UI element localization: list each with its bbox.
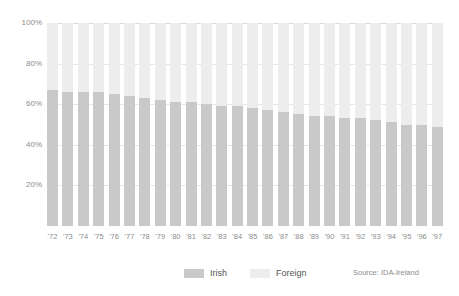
bar-column[interactable] <box>186 23 197 226</box>
x-axis-tick-label: '74 <box>78 232 89 244</box>
bar-column[interactable] <box>93 23 104 226</box>
bar-segment-foreign <box>370 23 381 120</box>
y-axis-tick-label: 20% <box>4 181 42 189</box>
x-axis-tick-label: '78 <box>139 232 150 244</box>
bar-segment-irish <box>324 116 335 226</box>
bar-segment-foreign <box>416 23 427 125</box>
bar-segment-foreign <box>186 23 197 102</box>
bar-column[interactable] <box>339 23 350 226</box>
x-axis-tick-label: '92 <box>355 232 366 244</box>
bar-segment-irish <box>155 100 166 226</box>
bar-column[interactable] <box>262 23 273 226</box>
legend-swatch-foreign <box>250 269 270 278</box>
bar-segment-irish <box>216 106 227 226</box>
bar-segment-foreign <box>78 23 89 92</box>
x-axis-tick-label: '91 <box>339 232 350 244</box>
bar-column[interactable] <box>386 23 397 226</box>
bar-segment-foreign <box>432 23 443 127</box>
bar-column[interactable] <box>293 23 304 226</box>
bar-column[interactable] <box>47 23 58 226</box>
bar-segment-irish <box>93 92 104 226</box>
bar-column[interactable] <box>62 23 73 226</box>
bar-segment-foreign <box>355 23 366 118</box>
bar-segment-foreign <box>262 23 273 110</box>
x-axis-tick-label: '88 <box>293 232 304 244</box>
bar-column[interactable] <box>401 23 412 226</box>
bar-column[interactable] <box>232 23 243 226</box>
legend-entry-irish[interactable]: Irish <box>184 266 227 280</box>
bar-segment-irish <box>262 110 273 226</box>
bar-column[interactable] <box>309 23 320 226</box>
bar-segment-irish <box>339 118 350 226</box>
bar-series-container <box>47 23 443 226</box>
bar-segment-irish <box>293 114 304 226</box>
y-axis-tick-label: 80% <box>4 60 42 68</box>
bar-segment-foreign <box>62 23 73 92</box>
bar-segment-foreign <box>170 23 181 102</box>
bar-segment-irish <box>201 104 212 226</box>
bar-column[interactable] <box>247 23 258 226</box>
x-axis-tick-label: '85 <box>247 232 258 244</box>
legend-label-irish: Irish <box>210 268 227 278</box>
bar-segment-irish <box>139 98 150 226</box>
x-axis-tick-label: '93 <box>370 232 381 244</box>
bar-segment-foreign <box>109 23 120 94</box>
x-axis-tick-label: '72 <box>47 232 58 244</box>
y-axis-tick-label: 40% <box>4 141 42 149</box>
bar-column[interactable] <box>370 23 381 226</box>
bar-segment-foreign <box>93 23 104 92</box>
bar-segment-foreign <box>309 23 320 116</box>
x-axis-tick-label: '75 <box>93 232 104 244</box>
legend-entry-foreign[interactable]: Foreign <box>250 266 307 280</box>
bar-segment-irish <box>170 102 181 226</box>
source-note: Source: IDA-Ireland <box>353 268 419 277</box>
x-axis-tick-label: '83 <box>216 232 227 244</box>
axis-baseline <box>47 226 443 227</box>
bar-column[interactable] <box>416 23 427 226</box>
y-axis-tick-label: 100% <box>4 19 42 27</box>
legend-swatch-irish <box>184 269 204 278</box>
bar-column[interactable] <box>139 23 150 226</box>
x-axis-tick-label: '76 <box>109 232 120 244</box>
x-axis-tick-label: '95 <box>401 232 412 244</box>
bar-column[interactable] <box>432 23 443 226</box>
x-axis-tick-label: '73 <box>62 232 73 244</box>
bar-column[interactable] <box>278 23 289 226</box>
x-axis-tick-label: '87 <box>278 232 289 244</box>
bar-segment-foreign <box>124 23 135 96</box>
bar-column[interactable] <box>201 23 212 226</box>
x-axis-tick-label: '82 <box>201 232 212 244</box>
bar-column[interactable] <box>155 23 166 226</box>
bar-segment-foreign <box>201 23 212 104</box>
bar-column[interactable] <box>324 23 335 226</box>
x-axis-tick-label: '79 <box>155 232 166 244</box>
bar-segment-foreign <box>139 23 150 98</box>
bar-segment-irish <box>109 94 120 226</box>
bar-segment-foreign <box>278 23 289 112</box>
bar-segment-irish <box>232 106 243 226</box>
x-axis-tick-label: '86 <box>262 232 273 244</box>
bar-column[interactable] <box>124 23 135 226</box>
bar-column[interactable] <box>170 23 181 226</box>
x-axis-tick-label: '90 <box>324 232 335 244</box>
plot-area <box>47 23 443 226</box>
x-axis-tick-label: '80 <box>170 232 181 244</box>
bar-segment-irish <box>355 118 366 226</box>
bar-segment-foreign <box>155 23 166 100</box>
x-axis-tick-label: '89 <box>309 232 320 244</box>
bar-column[interactable] <box>109 23 120 226</box>
bar-segment-irish <box>386 122 397 226</box>
legend-label-foreign: Foreign <box>276 268 307 278</box>
bar-segment-foreign <box>216 23 227 106</box>
x-axis-tick-label: '96 <box>416 232 427 244</box>
bar-segment-foreign <box>247 23 258 108</box>
bar-column[interactable] <box>78 23 89 226</box>
x-axis-tick-label: '81 <box>186 232 197 244</box>
bar-segment-irish <box>370 120 381 226</box>
bar-segment-foreign <box>401 23 412 125</box>
bar-column[interactable] <box>355 23 366 226</box>
bar-column[interactable] <box>216 23 227 226</box>
bar-segment-irish <box>124 96 135 226</box>
bar-segment-foreign <box>47 23 58 90</box>
x-axis-tick-label: '77 <box>124 232 135 244</box>
